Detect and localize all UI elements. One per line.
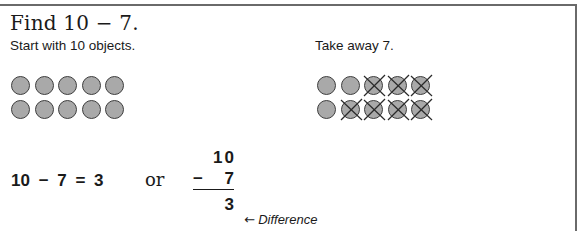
horizontal-equation: 10 − 7 = 3 [11,171,104,191]
cross-out-icon [410,74,433,97]
start-object-circle [105,100,124,119]
cross-out-icon [387,98,410,121]
start-object-circle [105,76,124,95]
minus-operator: − [193,168,203,189]
take-away-object-circle-crossed-out [388,100,407,119]
take-away-object-circle [341,76,360,95]
take-away-instruction: Take away 7. [315,38,394,53]
subtrahend-row: − 7 [193,168,234,190]
start-object-circle [82,100,101,119]
problem-title: Find 10 − 7. [10,11,139,35]
cross-out-icon [363,74,386,97]
cross-out-icon [340,98,363,121]
take-away-objects-grid [317,76,430,119]
take-away-object-circle-crossed-out [341,100,360,119]
take-away-object-circle-crossed-out [411,76,430,95]
difference-result: 3 [190,194,234,215]
difference-label: Difference [258,212,317,227]
cross-out-icon [363,98,386,121]
start-object-circle [58,76,77,95]
start-object-circle [82,76,101,95]
take-away-object-circle [317,76,336,95]
start-object-circle [35,76,54,95]
start-object-circle [58,100,77,119]
take-away-object-circle-crossed-out [411,100,430,119]
cross-out-icon [410,98,433,121]
cross-out-icon [387,74,410,97]
or-connector: or [145,169,164,190]
subtrahend: 7 [225,168,234,189]
start-object-circle [35,100,54,119]
minuend: 10 [190,147,236,168]
start-objects-grid [11,76,124,119]
take-away-object-circle-crossed-out [364,100,383,119]
left-arrow-icon: ← [244,212,255,227]
vertical-subtraction: 10 − 7 3 [190,147,234,215]
start-instruction: Start with 10 objects. [10,38,135,53]
difference-annotation: ←Difference [237,197,317,227]
take-away-object-circle-crossed-out [388,76,407,95]
take-away-object-circle-crossed-out [364,76,383,95]
take-away-object-circle [317,100,336,119]
start-object-circle [11,76,30,95]
start-object-circle [11,100,30,119]
